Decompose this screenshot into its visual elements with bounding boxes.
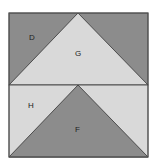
label-G: G (75, 49, 81, 58)
label-H: H (28, 101, 34, 110)
quilt-block-diagram: D G H F (0, 0, 159, 168)
label-F: F (75, 125, 80, 134)
label-D: D (29, 33, 35, 42)
